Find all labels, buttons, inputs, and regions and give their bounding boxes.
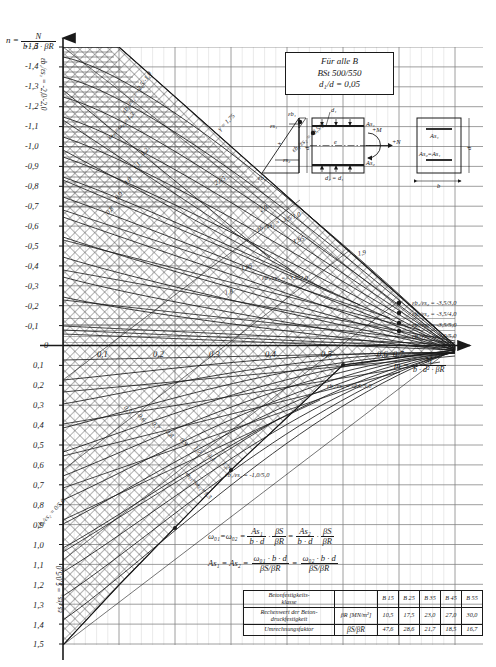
moment-arrow-label: +M <box>372 126 382 133</box>
y-tick: -0,6 <box>25 221 38 231</box>
y-tick: 1,3 <box>33 600 44 610</box>
row-label-line1: Betonfestigkeits- <box>268 591 309 598</box>
symbol-beta-r: βR <box>341 611 348 618</box>
y-tick: 0,6 <box>33 460 44 470</box>
annotation-eps-20-50: εb₁/εs₂ = -2,0/5,0 <box>327 382 371 389</box>
y-tick: 0,5 <box>33 440 44 450</box>
d2-dim-label: d₂ = d₁ <box>325 174 343 181</box>
y-tick: 1,2 <box>33 580 44 590</box>
y-tick: -1,0 <box>25 141 38 151</box>
row-label-concrete-class: Betonfestigkeits- klasse <box>244 591 335 608</box>
f1-t4-den: βR <box>321 537 334 546</box>
cell-strength-b45: 27,0 <box>441 607 462 624</box>
x-tick: 0,6 <box>377 349 388 359</box>
cell-class-b25: B 25 <box>399 591 420 608</box>
cell-factor-b15: 47,6 <box>378 624 399 635</box>
f1-t1-den: b · d <box>247 537 266 546</box>
table-row: Betonfestigkeits- klasse B 15 B 25 B 35 … <box>244 591 483 608</box>
d-dim-label: d <box>303 147 310 150</box>
formula-dot-2: · <box>316 531 318 541</box>
formula-dot-1: · <box>268 531 270 541</box>
formula-equals-1: = <box>288 531 294 541</box>
cell-class-b45: B 45 <box>441 591 462 608</box>
cell-factor-b55: 16,7 <box>462 624 483 635</box>
legend-line-3: d₁/d = 0,05 <box>293 79 386 91</box>
y-tick: 1,1 <box>33 560 44 570</box>
cell-strength-b15: 10,5 <box>378 607 399 624</box>
y-tick: -1,2 <box>25 101 38 111</box>
formula-equals-2: = <box>292 558 298 568</box>
normal-force-arrow-label: +N <box>392 138 401 145</box>
b-dim-label: b <box>437 182 440 189</box>
y-axis-strain-label-bottom: εs₁/εs₂ = 5,0/5,0 <box>56 566 64 613</box>
table-row: Rechenwert der Beton- druckfestigkeit βR… <box>244 607 483 624</box>
plus-sign: + <box>277 140 282 148</box>
y-tick: 0,1 <box>33 360 44 370</box>
y-tick: -1,4 <box>25 61 38 71</box>
d-dim-right-label: d <box>465 147 472 150</box>
x-axis-title-lead: m = <box>394 360 409 370</box>
x-axis-den: b · d² · βR <box>411 366 446 374</box>
row-symbol-empty <box>335 591 378 608</box>
cell-factor-b25: 28,6 <box>399 624 420 635</box>
eps-s1-label: εs₁ <box>270 122 277 129</box>
concrete-grade-table: Betonfestigkeits- klasse B 15 B 25 B 35 … <box>243 590 483 636</box>
annotation-eps-35-40: εb₁/εs₂ = -3,5/4,0 <box>412 310 456 317</box>
y-tick: -0,8 <box>25 181 38 191</box>
y-axis-strain-label-top: εb₁/εs₂ = -2,0/-2,0 <box>39 58 47 110</box>
cell-class-b35: B 35 <box>420 591 441 608</box>
row-label-line2: druckfestigkeit <box>271 615 307 622</box>
legend-line-2: BSt 500/550 <box>293 68 386 80</box>
y-tick: -0,4 <box>25 261 38 271</box>
interaction-diagram-page: n = N b · d · βR m = M b · d² · βR -1,5 … <box>0 0 496 667</box>
eps-b2-label: εb₂ <box>258 174 266 181</box>
cell-strength-b55: 30,0 <box>462 607 483 624</box>
cell-strength-b25: 17,5 <box>399 607 420 624</box>
annotation-eps-10-50: εb₁/εs₂ = -1,0/5,0 <box>225 471 269 478</box>
cell-class-b55: B 55 <box>462 591 483 608</box>
formula-omega-lead: ω₀₁=ω₀₂ = <box>208 531 245 541</box>
y-tick: -0,5 <box>25 241 38 251</box>
y-tick: 0,8 <box>33 500 44 510</box>
f1-t2-den: βR <box>272 537 285 546</box>
x-tick: 0,4 <box>265 349 276 359</box>
as2-equals-label: As₂=As₁ <box>419 150 441 157</box>
y-tick: 0 <box>44 340 48 350</box>
f1-t3-den: b · d <box>296 537 315 546</box>
f2-t2-den: βS/βR <box>301 564 338 573</box>
formula-omega: ω₀₁=ω₀₂ = As₁b · d · βSβR = As₂b · d · β… <box>208 527 338 545</box>
y-tick: -1,1 <box>25 121 38 131</box>
legend-line-1: Für alle B <box>293 56 386 68</box>
y-tick: -0,7 <box>25 201 38 211</box>
y-tick: 0,7 <box>33 480 44 490</box>
y-axis-title-lead: n = <box>6 35 19 45</box>
eps-b1-label: εb₁ <box>288 110 296 117</box>
x-tick: 0,5 <box>321 349 332 359</box>
d1-dim-label: d₁ <box>331 106 336 113</box>
y-tick: -0,1 <box>25 321 38 331</box>
eps-s2-label: εs₂ <box>283 156 290 163</box>
annotation-eps-30-50: εb₁/εs₂ = -3,0/5,0 <box>412 332 456 339</box>
y-tick: 0,4 <box>33 420 44 430</box>
y-tick: 1,5 <box>33 639 44 649</box>
table-row: Umrechnungsfaktor βS/βR 47,6 28,6 21,7 1… <box>244 624 483 635</box>
row-symbol-ratio: βS/βR <box>335 624 378 635</box>
annotation-eps-35-30: εb₁/εs₂ = -3,5/3,0 <box>412 299 456 306</box>
y-tick: -0,9 <box>25 161 38 171</box>
as2-label: As₂ <box>366 159 375 166</box>
row-label-line2: klasse <box>281 598 296 605</box>
row-label-conversion-factor: Umrechnungsfaktor <box>244 624 335 635</box>
row-label-line1: Rechenwert der Beton- <box>260 608 317 615</box>
formula-as-lead: As₁ = As₂ = <box>208 558 249 568</box>
y-tick: -0,2 <box>25 301 38 311</box>
y-tick: 1,0 <box>33 540 44 550</box>
annotation-eps-35-50: εb₁/εs₂ = -3,5/5,0 <box>412 321 456 328</box>
y-tick: 0,3 <box>33 400 44 410</box>
symbol-unit: MN/m² <box>352 611 369 618</box>
annotation-eps-35-20: εb₁/εs₂ = -3,5/2,0 <box>262 274 308 281</box>
x-tick: 0,3 <box>209 349 220 359</box>
row-label-design-strength: Rechenwert der Beton- druckfestigkeit <box>244 607 335 624</box>
y-tick: -1,5 <box>25 41 38 51</box>
cell-factor-b45: 18,5 <box>441 624 462 635</box>
f2-t1-den: βS/βR <box>252 564 289 573</box>
